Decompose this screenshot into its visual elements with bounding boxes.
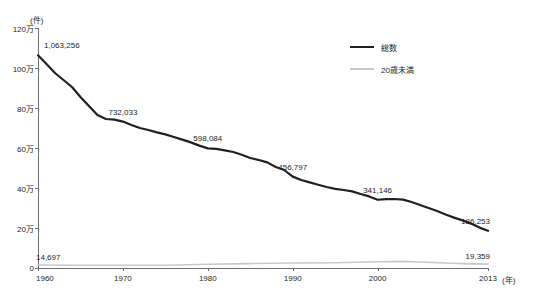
legend-swatch-under20 <box>350 68 374 70</box>
x-tick-mark <box>488 268 489 271</box>
y-tick-label: 80万 <box>6 103 34 114</box>
x-tick-label: 1970 <box>114 274 132 283</box>
y-tick-label: 20万 <box>6 223 34 234</box>
series-line-under20 <box>38 261 488 265</box>
data-label: 19,359 <box>466 252 490 261</box>
x-axis-unit-label: (年) <box>502 274 515 285</box>
x-tick-label: 1960 <box>36 274 54 283</box>
legend-item-total: 総数 <box>350 40 480 54</box>
legend-label-total: 総数 <box>381 42 397 53</box>
y-tick-label: 120万 <box>6 23 34 34</box>
data-label: 732,033 <box>108 108 137 117</box>
x-tick-mark <box>208 268 209 271</box>
legend-item-under20: 20歳未満 <box>350 62 480 76</box>
x-tick-label: 2013 <box>479 274 497 283</box>
x-tick-label: 2000 <box>369 274 387 283</box>
data-label: 1,063,256 <box>44 41 80 50</box>
x-tick-label: 1980 <box>199 274 217 283</box>
data-label: 598,084 <box>193 134 222 143</box>
y-tick-label: 100万 <box>6 63 34 74</box>
legend-swatch-total <box>350 46 374 49</box>
data-label: 186,253 <box>461 217 490 226</box>
x-tick-label: 1990 <box>284 274 302 283</box>
x-tick-mark <box>378 268 379 271</box>
x-tick-mark <box>38 268 39 271</box>
chart-root: (件) 020万40万60万80万100万120万 19601970198019… <box>0 0 533 292</box>
y-tick-label: 0 <box>6 264 34 273</box>
x-tick-mark <box>123 268 124 271</box>
data-label: 341,146 <box>363 186 392 195</box>
data-label: 456,797 <box>278 163 307 172</box>
x-axis-line <box>38 268 488 269</box>
x-tick-mark <box>293 268 294 271</box>
y-tick-label: 60万 <box>6 143 34 154</box>
data-label: 14,697 <box>36 253 60 262</box>
legend-label-under20: 20歳未満 <box>381 64 414 75</box>
legend: 総数 20歳未満 <box>350 40 480 84</box>
y-tick-label: 40万 <box>6 183 34 194</box>
